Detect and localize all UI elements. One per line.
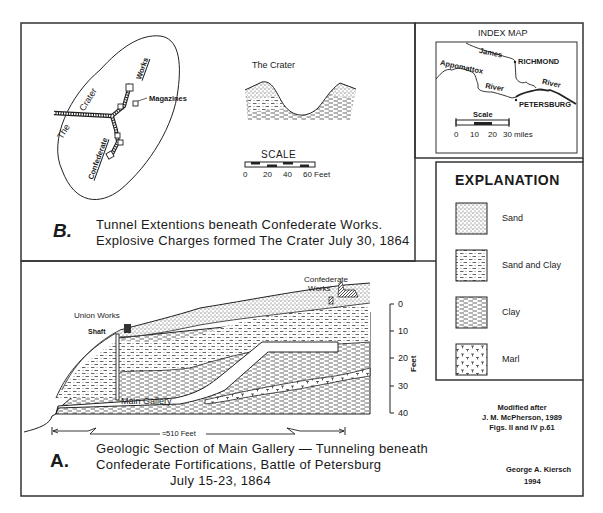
index-scale-tick-0: 0: [454, 131, 458, 139]
panel-b-letter: B.: [53, 221, 72, 240]
depth-tick-10: 10: [398, 327, 408, 336]
credit-year: 1994: [524, 478, 541, 486]
crater-profile: [245, 82, 356, 120]
depth-tick-30: 30: [398, 382, 408, 391]
panel-b-scale-title: SCALE: [261, 150, 296, 160]
depth-axis-unit: Feet: [410, 356, 418, 372]
depth-tick-40: 40: [398, 409, 408, 418]
index-scale-tick-30: 30 miles: [503, 131, 533, 139]
index-map-rivers: [436, 43, 576, 104]
magazines-label: Magazines: [149, 95, 187, 103]
panel-b-scale-tick-60: 60 Feet: [303, 171, 330, 179]
panel-a-caption-line1: Geologic Section of Main Gallery — Tunne…: [96, 442, 428, 455]
map-label-richmond: RICHMOND: [518, 58, 559, 66]
legend-label-clay: Clay: [502, 308, 520, 317]
union-works-label: Union Works: [74, 312, 120, 320]
credit-modified-line2: J. M. McPherson, 1989: [462, 414, 582, 422]
legend-swatches: [456, 203, 487, 375]
credit-modified-line1: Modified after: [492, 404, 552, 412]
credit-author: George A. Kiersch: [506, 466, 571, 474]
legend-label-sand: Sand: [502, 214, 523, 223]
panel-b-scale-tick-20: 20: [263, 171, 272, 179]
depth-axis: [390, 304, 394, 413]
panel-b-scale-tick-40: 40: [283, 171, 292, 179]
index-map-title: INDEX MAP: [478, 29, 528, 38]
index-map-scale-bar: [456, 118, 509, 127]
crater-plan-map: [54, 36, 179, 200]
length-dimension: [52, 427, 345, 435]
legend-label-marl: Marl: [502, 355, 520, 364]
map-label-petersburg: PETERSBURG: [519, 101, 571, 109]
depth-tick-20: 20: [398, 354, 408, 363]
length-label: ≈510 Feet: [162, 430, 196, 438]
main-gallery-label: Main Gallery: [121, 397, 172, 406]
explanation-title: EXPLANATION: [455, 173, 560, 187]
shaft-label: Shaft: [88, 328, 106, 335]
panel-b-caption-line1: Tunnel Extentions beneath Confederate Wo…: [96, 218, 382, 231]
panel-a-caption-line3: July 15-23, 1864: [170, 474, 271, 487]
figure-graphics: [0, 0, 603, 513]
index-map-scale-title: Scale: [473, 111, 493, 119]
panel-a-caption-line2: Confederate Fortifications, Battle of Pe…: [96, 458, 381, 471]
legend-label-sand-clay: Sand and Clay: [502, 261, 561, 270]
panel-a-letter: A.: [50, 451, 69, 470]
panel-b-caption-line2: Explosive Charges formed The Crater July…: [96, 234, 410, 247]
index-scale-tick-10: 10: [470, 131, 479, 139]
confederate-works-label-1: Confederate: [304, 276, 344, 284]
panel-b-scale-bar: [245, 162, 315, 167]
confederate-works-label-2: Works: [308, 285, 331, 293]
crater-profile-title: The Crater: [252, 61, 295, 70]
depth-tick-0: 0: [398, 300, 403, 309]
geologic-section: [24, 282, 370, 432]
credit-modified-line3: Figs. II and IV p.61: [462, 424, 582, 432]
index-scale-tick-20: 20: [488, 131, 497, 139]
panel-b-scale-tick-0: 0: [243, 171, 247, 179]
